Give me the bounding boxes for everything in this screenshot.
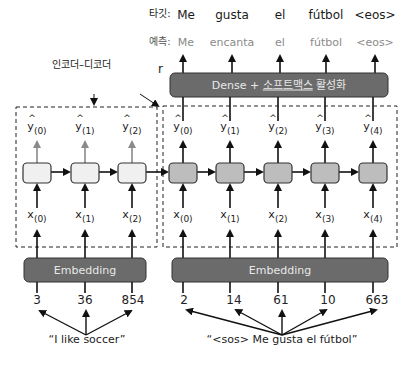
subscript: (3)	[322, 126, 335, 136]
encoder-output-label: y(1)	[75, 121, 94, 132]
dense-label-prefix: Dense +	[212, 79, 263, 92]
x-symbol: x	[220, 208, 227, 221]
decoder-input-label: x(1)	[220, 209, 239, 220]
y-hat-symbol: y	[27, 121, 34, 132]
encoder-output-label: y(0)	[27, 121, 46, 132]
decoder-token-id: 14	[226, 294, 241, 306]
subscript: (1)	[82, 126, 95, 136]
encoder-decoder-label: 인코더–디코더	[52, 60, 111, 70]
decoder-to-dense-lines	[183, 97, 373, 121]
encoder-token-id: 36	[77, 294, 92, 306]
encoder-input-label: x(2)	[122, 209, 141, 220]
decoder-cell	[169, 163, 197, 183]
subscript: (0)	[34, 214, 47, 224]
decoder-token-id: 2	[180, 294, 188, 306]
target-word: fútbol	[309, 9, 344, 21]
decoder-output-label: y(3)	[315, 121, 334, 132]
subscript: (3)	[322, 214, 335, 224]
x-symbol: x	[268, 208, 275, 221]
encoder-input-label: x(0)	[27, 209, 46, 220]
r-label: r	[158, 63, 163, 75]
decoder-cell	[311, 163, 339, 183]
decoder-output-arrows	[183, 142, 373, 163]
subscript: (1)	[227, 214, 240, 224]
embedding-output-arrows	[37, 231, 373, 258]
decoder-input-sentence: “<sos> Me gusta el fútbol”	[207, 334, 358, 345]
r-pointer-arrow	[140, 94, 158, 106]
x-symbol: x	[27, 208, 34, 221]
subscript: (4)	[370, 214, 383, 224]
y-hat-symbol: y	[268, 121, 275, 132]
subscript: (0)	[180, 126, 193, 136]
target-word: el	[275, 9, 286, 21]
decoder-input-label: x(4)	[363, 209, 382, 220]
token-to-embedding-lines	[37, 282, 373, 293]
target-prefix: 타깃:	[149, 9, 170, 19]
encoder-input-label: x(1)	[75, 209, 94, 220]
y-hat-symbol: y	[122, 121, 129, 132]
subscript: (2)	[275, 214, 288, 224]
activation-label: 활성화	[313, 79, 347, 92]
y-hat-symbol: y	[363, 121, 370, 132]
decoder-output-label: y(0)	[173, 121, 192, 132]
decoder-cell	[264, 163, 292, 183]
y-hat-symbol: y	[173, 121, 180, 132]
encoder-token-id: 3	[33, 294, 41, 306]
encoder-token-id: 854	[122, 294, 145, 306]
decoder-token-id: 61	[273, 294, 288, 306]
x-symbol: x	[122, 208, 129, 221]
y-hat-symbol: y	[315, 121, 322, 132]
decoder-output-label: y(2)	[268, 121, 287, 132]
subscript: (2)	[275, 126, 288, 136]
encoder-embedding-label: Embedding	[54, 265, 116, 276]
x-symbol: x	[173, 208, 180, 221]
decoder-cell	[216, 163, 244, 183]
decoder-tokenize-arrows	[187, 310, 376, 335]
encoder-cell	[23, 163, 51, 183]
prediction-word: fútbol	[310, 37, 342, 48]
decoder-output-label: y(1)	[220, 121, 239, 132]
decoder-token-id: 10	[320, 294, 335, 306]
prediction-prefix: 예측:	[149, 37, 170, 47]
subscript: (1)	[82, 214, 95, 224]
decoder-input-label: x(2)	[268, 209, 287, 220]
prediction-word: <eos>	[356, 37, 394, 48]
x-symbol: x	[75, 208, 82, 221]
decoder-cell	[359, 163, 387, 183]
decoder-token-id: 663	[366, 294, 389, 306]
decoder-input-label: x(0)	[173, 209, 192, 220]
diagram-canvas	[0, 0, 408, 365]
subscript: (2)	[129, 214, 142, 224]
encoder-tokenize-arrows	[40, 311, 131, 335]
target-word: <eos>	[354, 9, 395, 21]
x-symbol: x	[363, 208, 370, 221]
prediction-word: el	[275, 37, 285, 48]
dense-softmax-label: Dense + 소프트맥스 활성화	[212, 80, 346, 91]
y-hat-symbol: y	[75, 121, 82, 132]
encoder-cell	[118, 163, 146, 183]
input-to-cell-arrows	[37, 185, 373, 208]
prediction-word: encanta	[210, 37, 255, 48]
decoder-output-label: y(4)	[363, 121, 382, 132]
dense-output-arrows	[183, 56, 375, 73]
decoder-embedding-label: Embedding	[249, 265, 311, 276]
decoder-cells	[169, 163, 387, 183]
decoder-input-label: x(3)	[315, 209, 334, 220]
target-word: Me	[177, 9, 195, 21]
y-hat-symbol: y	[220, 121, 227, 132]
encoder-source-sentence: “I like soccer”	[49, 334, 126, 345]
subscript: (2)	[129, 126, 142, 136]
subscript: (1)	[227, 126, 240, 136]
encoder-cell	[71, 163, 99, 183]
subscript: (0)	[34, 126, 47, 136]
x-symbol: x	[315, 208, 322, 221]
encoder-cells	[23, 163, 146, 183]
encoder-output-label: y(2)	[122, 121, 141, 132]
softmax-label: 소프트맥스	[263, 79, 313, 92]
subscript: (0)	[180, 214, 193, 224]
subscript: (4)	[370, 126, 383, 136]
encoder-output-arrows	[37, 142, 132, 163]
prediction-word: Me	[178, 37, 194, 48]
target-word: gusta	[215, 9, 249, 21]
